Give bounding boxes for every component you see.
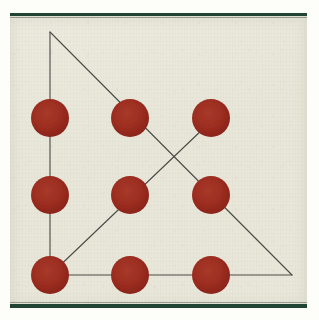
dot-r2c2 <box>111 176 149 214</box>
dot-r3c1 <box>31 256 69 294</box>
dot-r1c3 <box>192 99 230 137</box>
dot-r3c3 <box>192 256 230 294</box>
geometric-figure <box>0 0 319 320</box>
scanned-figure-page <box>0 0 319 320</box>
dots-group <box>31 99 230 294</box>
dot-r2c3 <box>192 176 230 214</box>
dot-r1c2 <box>111 99 149 137</box>
dot-r1c1 <box>31 99 69 137</box>
dot-r2c1 <box>31 176 69 214</box>
lines-group <box>50 32 292 275</box>
dot-r3c2 <box>111 256 149 294</box>
line-main-diagonal <box>50 32 292 275</box>
